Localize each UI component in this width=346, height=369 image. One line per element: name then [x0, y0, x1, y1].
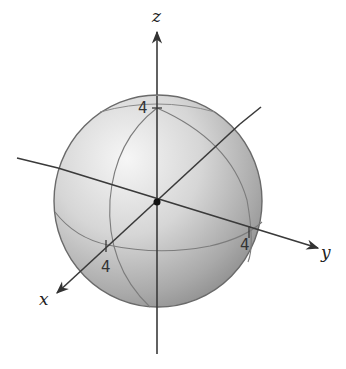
- origin-point: [154, 199, 161, 206]
- diagram-canvas: z y x 4 4 4: [0, 0, 346, 369]
- y-tick-label: 4: [240, 236, 250, 254]
- y-axis-negative: [17, 158, 58, 168]
- z-axis-label: z: [151, 6, 162, 26]
- y-axis-label: y: [320, 242, 331, 262]
- x-axis-negative: [240, 107, 261, 124]
- x-axis-label: x: [39, 289, 49, 309]
- z-tick-label: 4: [138, 99, 148, 117]
- x-tick-label: 4: [101, 258, 111, 276]
- sphere-diagram: z y x 4 4 4: [0, 0, 346, 369]
